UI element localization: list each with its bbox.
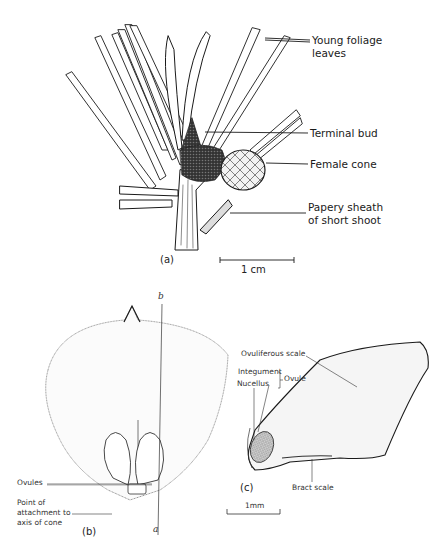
label-attachment-to: attachment to bbox=[17, 509, 70, 518]
scale-label-1cm: 1 cm bbox=[241, 264, 266, 276]
scale-label-1mm: 1mm bbox=[245, 502, 264, 511]
label-papery-sheath-cont: of short shoot bbox=[308, 214, 381, 226]
label-ovuliferous-scale: Ovuliferous scale bbox=[241, 350, 305, 359]
ovuliferous-scale-section bbox=[246, 342, 428, 482]
axis-label-b: b bbox=[158, 291, 164, 301]
label-axis-of-cone: axis of cone bbox=[17, 519, 62, 528]
label-terminal-bud: Terminal bud bbox=[310, 127, 378, 139]
label-ovule: Ovule bbox=[284, 375, 306, 384]
scale-bar-1cm bbox=[220, 257, 294, 263]
panel-label-c: (c) bbox=[240, 482, 253, 494]
label-nucellus: Nucellus bbox=[237, 380, 269, 389]
label-young-foliage-cont: leaves bbox=[312, 47, 346, 59]
pine-shoot-drawing bbox=[66, 25, 302, 250]
label-young-foliage: Young foliage bbox=[312, 34, 382, 46]
axis-label-a: a bbox=[153, 524, 158, 534]
label-papery-sheath: Papery sheath bbox=[308, 201, 383, 213]
label-point-of: Point of bbox=[17, 499, 45, 508]
label-female-cone: Female cone bbox=[310, 158, 377, 170]
panel-label-a: (a) bbox=[160, 254, 174, 266]
label-bract-scale: Bract scale bbox=[292, 484, 334, 493]
ovuliferous-scale-face bbox=[46, 304, 228, 535]
label-ovules: Ovules bbox=[17, 479, 43, 488]
botanical-figure bbox=[0, 0, 447, 552]
panel-label-b: (b) bbox=[82, 526, 96, 538]
label-integument: Integument bbox=[238, 368, 282, 377]
